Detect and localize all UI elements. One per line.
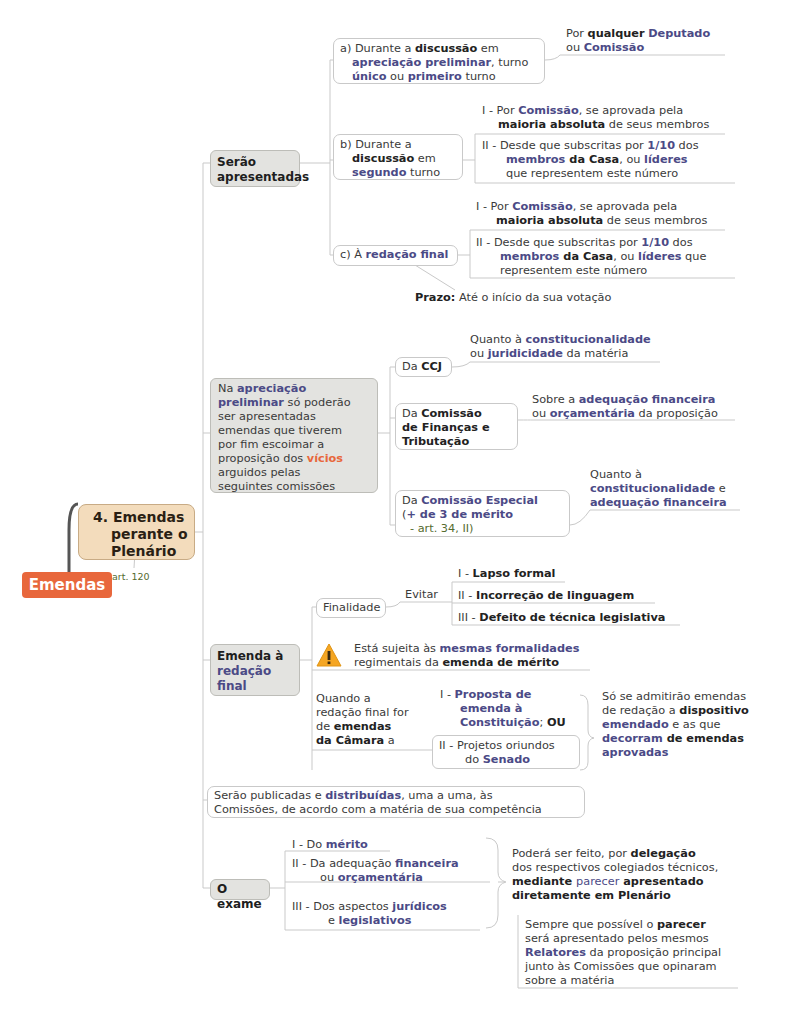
node-o-exame[interactable]: O exame	[210, 879, 270, 900]
evitar-item-defeito: III - Defeito de técnica legislativa	[458, 611, 665, 625]
node-label: apresentadas	[217, 170, 293, 185]
main-topic-emendas-plenario[interactable]: 4. Emendas perante o Plenário	[78, 504, 195, 560]
b-item-comissao: I - Por Comissão, se aprovada pela maior…	[482, 104, 709, 132]
evitar-item-incorrecao: II - Incorreção de linguagem	[458, 589, 634, 603]
node-da-ccj[interactable]: Da CCJ	[395, 357, 452, 377]
quando-item-senado[interactable]: II - Projetos oriundos do Senado	[432, 735, 580, 769]
node-apreciacao-preliminar[interactable]: Na apreciação preliminar só poderão ser …	[210, 378, 378, 493]
b-item-subscritas: II - Desde que subscritas por 1/10 dos m…	[482, 139, 699, 181]
node-comissao-especial[interactable]: Da Comissão Especial (+ de 3 de mérito -…	[395, 490, 570, 537]
evitar-item-lapso: I - Lapso formal	[458, 567, 555, 581]
label-evitar: Evitar	[405, 588, 438, 602]
main-topic-line: Plenário	[93, 543, 194, 560]
node-label: Serão	[217, 155, 293, 170]
exame-item-merito: I - Do mérito	[292, 838, 368, 852]
main-topic-line: perante o	[93, 526, 194, 543]
quando-result: Só se admitirão emendas de redação a dis…	[602, 690, 749, 760]
exame-item-financeira: II - Da adequação financeira ou orçament…	[292, 857, 459, 885]
quando-redacao-final: Quando a redação final for de emendas da…	[316, 692, 409, 748]
node-serao-apresentadas[interactable]: Serão apresentadas	[210, 150, 300, 187]
prazo-note: Prazo: Até o início da sua votação	[415, 291, 611, 305]
node-b-segundo-turno[interactable]: b) Durante a discussão em segundo turno	[333, 134, 463, 180]
especial-detail: Quanto à constitucionalidade e adequação…	[590, 468, 727, 510]
exame-result-delegacao: Poderá ser feito, por delegação dos resp…	[512, 847, 718, 903]
node-serao-publicadas[interactable]: Serão publicadas e distribuídas, uma a u…	[207, 786, 585, 818]
main-topic-note: art. 120	[112, 570, 150, 584]
exame-sub-result-relatores: Sempre que possível o parecer será apres…	[525, 918, 721, 988]
node-finalidade[interactable]: Finalidade	[316, 598, 386, 618]
node-c-redacao-final[interactable]: c) À redação final	[333, 245, 458, 266]
warning-icon	[316, 643, 342, 667]
node-a-durante-discussao[interactable]: a) Durante a discussão em apreciação pre…	[333, 38, 545, 84]
detail-qualquer-deputado: Por qualquer Deputado ou Comissão	[566, 27, 710, 55]
node-comissao-financas[interactable]: Da Comissão de Finanças e Tributação	[395, 403, 518, 450]
node-emenda-redacao-final[interactable]: Emenda à redação final	[210, 644, 300, 696]
c-item-comissao: I - Por Comissão, se aprovada pela maior…	[476, 200, 707, 228]
root-node-emendas[interactable]: Emendas	[22, 572, 112, 598]
c-item-subscritas: II - Desde que subscritas por 1/10 dos m…	[476, 236, 706, 278]
ccj-detail: Quanto à constitucionalidade ou juridici…	[470, 333, 651, 361]
quando-item-pec: I - Proposta de emenda à Constituição; O…	[440, 688, 566, 730]
main-topic-line: 4. Emendas	[93, 509, 194, 526]
cft-detail: Sobre a adequação financeira ou orçament…	[532, 393, 718, 421]
warning-text: Está sujeita às mesmas formalidades regi…	[354, 642, 579, 670]
exame-item-juridicos: III - Dos aspectos jurídicos e legislati…	[292, 900, 447, 928]
